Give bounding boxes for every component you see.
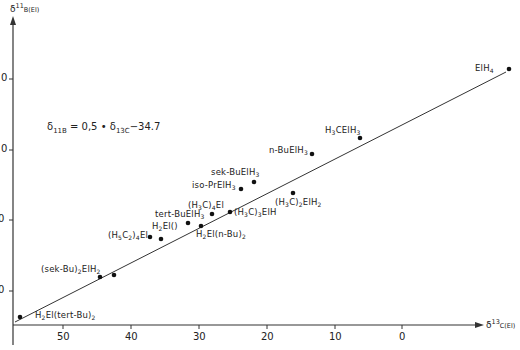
x-axis-title: δ13C(El) [486,318,515,330]
point-me3elh [228,210,233,215]
point-sekbu2elh2-b [112,273,117,278]
y-axis-arrow [10,16,16,25]
label-n-buelh3: n-BuElH3 [269,145,308,156]
point-h2el-tbu2 [18,315,23,320]
fit-equation: δ11B = 0,5 • δ13C−34.7 [47,121,160,135]
fit-line [15,72,506,322]
x-tick-label: 20 [261,331,274,342]
point-et4el [148,235,153,240]
point-tert-buelh3 [186,221,191,226]
label-me2elh2: (H3C)2ElH2 [275,197,322,208]
label-h3celh3: H3CElH3 [325,125,361,136]
point-me2elh2 [291,191,296,196]
scatter-plot [0,0,520,350]
point-iso-prelh3 [239,187,244,192]
label-sekbu2elh2: (sek-Bu)2ElH2 [41,264,101,275]
point-h2el-nbu2 [199,224,204,229]
point-elh4 [507,67,512,72]
label-me3elh: (H3C)3ElH [234,207,277,218]
label-h2el-tbu2: H2El(tert-Bu)2 [35,310,96,321]
point-sek-buelh3 [252,180,257,185]
label-h2el-nbu2: H2El(n-Bu)2 [196,229,246,240]
y-tick-label: 0 [0,213,4,224]
x-tick-label: 50 [57,331,70,342]
point-h3celh3 [358,136,363,141]
point-h2el-cyclo [159,237,164,242]
label-tert-buelh3: tert-BuElH3 [155,209,205,220]
x-tick-label: 10 [329,331,342,342]
y-tick-label: 0 [0,284,4,295]
y-tick-label: 0 [1,143,7,154]
point-me4el [210,212,215,217]
label-sek-buelh3: sek-BuElH3 [211,167,260,178]
label-h2el-cyclo: H2El() [152,221,178,232]
label-et4el: (H5C2)4El [108,230,148,241]
point-n-buelh3 [310,152,315,157]
data-points [18,67,512,320]
label-iso-prelh3: iso-PrElH3 [192,180,236,191]
x-axis-arrow [475,322,484,328]
point-sekbu2elh2-a [98,275,103,280]
x-tick-label: 40 [125,331,138,342]
label-elh4: ElH4 [475,63,494,74]
x-tick-label: 0 [399,331,405,342]
y-tick-label: 0 [1,72,7,83]
y-axis-title: δ11B(El) [10,2,39,14]
x-tick-label: 30 [193,331,206,342]
